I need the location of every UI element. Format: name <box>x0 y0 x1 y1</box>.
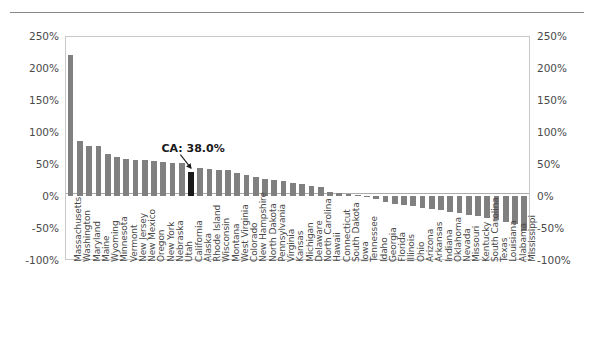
bar-virginia <box>281 181 287 196</box>
bar-iowa <box>355 195 361 196</box>
bar-washington <box>77 141 83 196</box>
y-axis-right-tick: 200% <box>537 63 567 74</box>
y-axis-right-tick: 250% <box>537 31 567 42</box>
bar-west-virginia <box>234 173 240 196</box>
bar-chart: 250%200%150%100%50%0%-50%-100% 250%200%1… <box>0 0 594 352</box>
x-label-kansas: Kansas <box>296 231 305 262</box>
y-axis-left-tick: 200% <box>29 63 59 74</box>
bar-oklahoma <box>447 196 453 212</box>
y-axis-right-tick: 100% <box>537 127 567 138</box>
bar-michigan <box>299 184 305 196</box>
bar-ohio <box>410 196 416 206</box>
y-axis-left-tick: 100% <box>29 127 59 138</box>
bar-minnesota <box>114 157 120 196</box>
bar-kentucky <box>475 196 481 216</box>
bar-nebraska <box>170 163 176 196</box>
x-label-new-hampshire: New Hampshire <box>259 192 268 262</box>
bar-arizona <box>420 196 426 208</box>
bar-massachusetts <box>68 55 74 196</box>
bar-utah <box>179 163 185 196</box>
bar-new-mexico <box>142 160 148 196</box>
y-axis-right-tick: -100% <box>537 255 571 266</box>
bar-north-carolina <box>318 187 324 196</box>
bar-illinois <box>401 196 407 205</box>
bar-new-york <box>160 162 166 196</box>
bar-rhode-island <box>207 169 213 196</box>
bar-hawaii <box>327 192 333 196</box>
y-axis-left-tick: -50% <box>32 223 59 234</box>
bar-florida <box>392 196 398 204</box>
bar-connecticut <box>336 193 342 196</box>
bar-delaware <box>309 186 315 196</box>
bar-pennsylvania <box>271 180 277 196</box>
y-axis-right-tick: -50% <box>537 223 564 234</box>
bar-new-jersey <box>133 160 139 196</box>
bar-louisiana <box>503 196 509 222</box>
y-axis-left-tick: 250% <box>29 31 59 42</box>
header-divider <box>10 12 584 13</box>
y-axis-left: 250%200%150%100%50%0%-50%-100% <box>5 36 61 260</box>
bar-oregon <box>151 161 157 196</box>
x-label-missouri: Missouri <box>472 226 481 262</box>
y-axis-right-tick: 50% <box>537 159 560 170</box>
y-axis-left-tick: 0% <box>42 191 59 202</box>
y-axis-right: 250%200%150%100%50%0%-50%-100% <box>533 36 589 260</box>
bar-georgia <box>383 196 389 202</box>
bar-idaho <box>373 196 379 199</box>
bar-wisconsin <box>216 170 222 196</box>
bar-montana <box>225 170 231 196</box>
x-label-arkansas: Arkansas <box>435 222 444 262</box>
bar-kansas <box>290 183 296 196</box>
y-axis-right-tick: 0% <box>537 191 554 202</box>
bar-maine <box>96 146 102 196</box>
bar-vermont <box>123 159 129 196</box>
x-label-wisconsin: Wisconsin <box>222 218 231 262</box>
y-axis-left-tick: 50% <box>36 159 59 170</box>
x-axis-category-labels: MassachusettsWashingtonMarylandMaineWyom… <box>66 262 529 350</box>
california-annotation-label: CA: 38.0% <box>162 142 225 155</box>
x-label-mississippi: Mississippi <box>528 215 537 262</box>
bar-arkansas <box>429 196 435 209</box>
bar-nevada <box>457 196 463 213</box>
y-axis-right-tick: 150% <box>537 95 567 106</box>
bar-indiana <box>438 196 444 210</box>
x-label-louisiana: Louisiana <box>509 220 518 262</box>
bar-colorado <box>244 175 250 196</box>
bar-missouri <box>466 196 472 215</box>
x-label-utah: Utah <box>185 241 194 262</box>
y-axis-left-tick: -100% <box>25 255 59 266</box>
bar-tennessee <box>364 196 370 197</box>
bar-california <box>188 172 194 196</box>
bar-wyoming <box>105 154 111 196</box>
y-axis-left-tick: 150% <box>29 95 59 106</box>
bar-alaska <box>197 168 203 196</box>
bar-south-dakota <box>346 194 352 196</box>
bar-maryland <box>86 146 92 196</box>
